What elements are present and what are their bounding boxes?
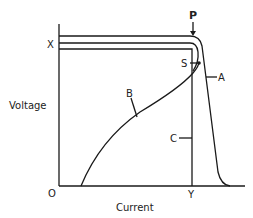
voltage-current-diagram: P S A B C X O Y Voltage Current (0, 0, 253, 218)
curve-c-label: C (170, 133, 177, 144)
point-s-label: S (181, 58, 187, 69)
curve-a-label: A (218, 72, 225, 83)
curve-middle (59, 43, 198, 71)
curve-b (81, 62, 199, 186)
point-p-label: P (189, 9, 197, 22)
y-marker-label: X (47, 39, 54, 50)
curve-a (59, 36, 230, 186)
curve-b-label: B (126, 88, 133, 99)
arrowhead-p (190, 31, 196, 36)
origin-label: O (48, 188, 56, 199)
leader-b (131, 98, 137, 117)
curve-c (59, 49, 192, 186)
y-axis-label: Voltage (9, 100, 47, 111)
point-s-marker (197, 61, 201, 65)
x-axis-label: Current (116, 202, 154, 213)
x-marker-label: Y (187, 189, 195, 200)
